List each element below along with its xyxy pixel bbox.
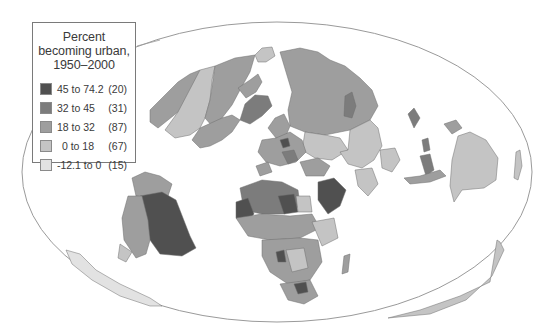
legend-title: Percent becoming urban, 1950–2000 [33,30,135,72]
legend-count: (31) [108,102,127,114]
legend-row: 0 to 18 (67) [33,136,135,155]
legend-count: (15) [108,159,127,171]
legend-count: (67) [108,140,127,152]
legend-title-line-2: becoming urban, [33,44,135,58]
legend-title-line-1: Percent [33,30,135,44]
legend-range: 32 to 45 [57,102,108,114]
legend-swatch-icon [40,140,52,152]
legend-range: 0 to 18 [57,140,108,152]
legend-swatch-icon [40,159,52,171]
region-egypt [296,196,312,212]
legend-range: -12.1 to 0 [57,159,108,171]
legend-row: 32 to 45 (31) [33,98,135,117]
legend-row: 45 to 74.2 (20) [33,79,135,98]
legend-count: (87) [108,121,127,133]
region-gabon [276,250,286,262]
legend: Percent becoming urban, 1950–2000 45 to … [32,22,136,163]
legend-swatch-icon [40,121,52,133]
legend-count: (20) [108,83,127,95]
legend-range: 45 to 74.2 [57,83,108,95]
legend-title-line-3: 1950–2000 [33,58,135,72]
legend-swatch-icon [40,83,52,95]
legend-range: 18 to 32 [57,121,108,133]
legend-swatch-icon [40,102,52,114]
legend-row: 18 to 32 (87) [33,117,135,136]
legend-rows: 45 to 74.2 (20) 32 to 45 (31) 18 to 32 (… [33,79,135,174]
legend-row: -12.1 to 0 (15) [33,155,135,174]
